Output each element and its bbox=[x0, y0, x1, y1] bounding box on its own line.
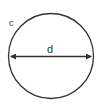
circumference-label: c bbox=[9, 18, 14, 28]
circle-diagram: d c bbox=[0, 0, 100, 109]
diameter-label: d bbox=[47, 43, 53, 55]
